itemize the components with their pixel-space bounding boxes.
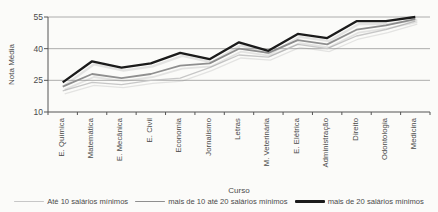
- y-axis-title: Nota Média: [7, 30, 16, 100]
- x-category-label-5: Jornalismo: [204, 118, 215, 188]
- series-shadow-1: [65, 22, 418, 90]
- y-tick-label-40: 40: [13, 44, 43, 54]
- legend-line-sample-2: [295, 200, 325, 202]
- x-axis-title: Curso: [48, 186, 430, 195]
- legend-line-sample-0: [14, 201, 44, 202]
- line-chart: 10254055 E. QuímicaMatemáticaE. Mecânica…: [0, 0, 438, 212]
- legend-item-2: mais de 20 salários mínimos: [295, 197, 424, 206]
- x-category-label-12: Medicina: [409, 118, 420, 188]
- legend-label-1: mais de 10 até 20 salários mínimos: [168, 197, 287, 206]
- legend-item-0: Até 10 salários mínimos: [14, 197, 128, 206]
- x-category-label-9: Administração: [321, 118, 332, 188]
- x-category-label-7: M. Veterinária: [262, 118, 273, 188]
- legend-label-2: mais de 20 salários mínimos: [328, 197, 424, 206]
- x-category-label-11: Odontologia: [380, 118, 391, 188]
- x-category-label-3: E. Civil: [145, 118, 156, 188]
- x-category-label-2: E. Mecânica: [115, 118, 126, 188]
- x-category-label-6: Letras: [233, 118, 244, 188]
- x-category-label-1: Matemática: [86, 118, 97, 188]
- legend-line-sample-1: [135, 201, 165, 203]
- x-category-label-8: E. Elétrica: [292, 118, 303, 188]
- x-category-label-4: Economia: [174, 118, 185, 188]
- x-category-label-10: Direito: [351, 118, 362, 188]
- y-tick-label-25: 25: [13, 75, 43, 85]
- legend-label-0: Até 10 salários mínimos: [47, 197, 128, 206]
- x-category-label-0: E. Química: [57, 118, 68, 188]
- legend-item-1: mais de 10 até 20 salários mínimos: [135, 197, 287, 206]
- legend: Até 10 salários mínimosmais de 10 até 20…: [0, 197, 438, 206]
- y-tick-label-55: 55: [13, 12, 43, 22]
- y-tick-label-10: 10: [13, 107, 43, 117]
